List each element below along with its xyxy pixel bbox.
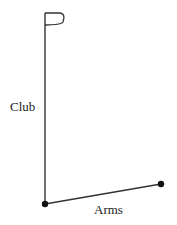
golf-swing-diagram: Club Arms — [0, 0, 177, 225]
arms-line — [45, 184, 161, 204]
shoulder-joint — [158, 181, 164, 187]
club-label: Club — [10, 99, 35, 114]
arms-label: Arms — [94, 202, 123, 217]
wrist-joint — [42, 201, 48, 207]
flag-icon — [45, 13, 64, 25]
